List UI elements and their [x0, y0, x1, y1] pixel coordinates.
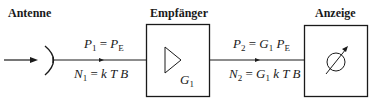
amplifier-icon: [165, 47, 181, 73]
antenna-label: Antenne: [8, 6, 51, 21]
receiver-label: Empfänger: [150, 6, 208, 21]
output-power-equation: P2 = G1 PE: [233, 36, 290, 53]
receiver-block: [147, 25, 210, 97]
output-noise-equation: N2 = G1 k T B: [229, 66, 300, 83]
meter-icon: [326, 46, 348, 74]
display-label: Anzeige: [315, 6, 356, 21]
input-power-equation: P1 = PE: [84, 36, 124, 53]
antenna-dish-icon: [45, 46, 54, 75]
signal-line-output: [210, 58, 304, 62]
receiver-gain: G1: [180, 72, 194, 89]
incoming-signal-arrow: [4, 57, 38, 63]
input-noise-equation: N1 = k T B: [74, 66, 128, 83]
signal-line-input: [53, 58, 146, 62]
